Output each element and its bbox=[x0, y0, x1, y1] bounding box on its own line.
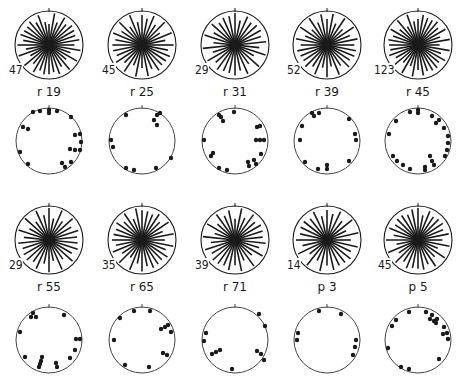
data-point bbox=[218, 348, 222, 352]
data-point bbox=[62, 313, 66, 317]
sample-count: 52 bbox=[287, 63, 301, 77]
rose-diagram bbox=[108, 8, 176, 79]
data-point bbox=[339, 312, 343, 316]
panel-label: r 65 bbox=[112, 280, 172, 294]
data-point bbox=[31, 311, 35, 315]
data-point bbox=[408, 167, 412, 171]
data-point bbox=[26, 127, 30, 131]
rose-diagram bbox=[293, 8, 361, 79]
data-point bbox=[434, 321, 438, 325]
data-point bbox=[26, 162, 30, 166]
data-point bbox=[217, 166, 221, 170]
data-point bbox=[441, 332, 445, 336]
sample-count: 39 bbox=[195, 258, 209, 272]
data-point bbox=[73, 348, 77, 352]
data-point bbox=[428, 317, 432, 321]
dot-plot bbox=[385, 304, 451, 373]
data-point bbox=[79, 140, 83, 144]
panel-label: r 45 bbox=[388, 85, 448, 99]
data-point bbox=[443, 154, 447, 158]
data-point bbox=[147, 365, 151, 369]
data-point bbox=[37, 365, 41, 369]
data-point bbox=[232, 110, 236, 114]
data-point bbox=[118, 316, 122, 320]
dot-plot bbox=[16, 105, 83, 174]
data-point bbox=[300, 124, 304, 128]
data-point bbox=[23, 355, 27, 359]
data-point bbox=[408, 110, 412, 114]
data-point bbox=[68, 356, 72, 360]
data-point bbox=[154, 166, 158, 170]
panel-label: r 31 bbox=[205, 85, 265, 99]
data-point bbox=[63, 165, 67, 169]
data-point bbox=[78, 132, 82, 136]
data-point bbox=[351, 353, 355, 357]
data-point bbox=[407, 310, 411, 314]
sample-count: 47 bbox=[9, 63, 23, 77]
data-point bbox=[124, 166, 128, 170]
data-point bbox=[210, 352, 214, 356]
data-point bbox=[442, 126, 446, 130]
data-point bbox=[442, 325, 446, 329]
rose-diagram bbox=[201, 8, 269, 79]
data-point bbox=[230, 367, 234, 371]
data-point bbox=[399, 365, 403, 369]
data-point bbox=[209, 154, 213, 158]
data-point bbox=[132, 309, 136, 313]
dot-plot bbox=[202, 105, 268, 174]
data-point bbox=[262, 358, 266, 362]
sample-count: 45 bbox=[378, 258, 392, 272]
panel-label: p 3 bbox=[297, 280, 357, 294]
data-point bbox=[354, 338, 358, 342]
data-point bbox=[219, 115, 223, 119]
data-point bbox=[202, 138, 206, 142]
data-point bbox=[347, 117, 351, 121]
data-point bbox=[166, 323, 170, 327]
sample-count: 29 bbox=[9, 258, 23, 272]
data-point bbox=[446, 134, 450, 138]
data-point bbox=[246, 160, 250, 164]
data-point bbox=[390, 324, 394, 328]
data-point bbox=[254, 138, 258, 142]
data-point bbox=[69, 115, 73, 119]
data-point bbox=[255, 349, 259, 353]
data-point bbox=[155, 123, 159, 127]
data-point bbox=[437, 357, 441, 361]
data-point bbox=[69, 160, 73, 164]
data-point bbox=[221, 119, 225, 123]
data-point bbox=[169, 330, 173, 334]
data-point bbox=[74, 337, 78, 341]
data-point bbox=[432, 163, 436, 167]
data-point bbox=[73, 133, 77, 137]
rose-diagram bbox=[293, 203, 361, 274]
panel-label: r 25 bbox=[112, 85, 172, 99]
data-point bbox=[111, 145, 115, 149]
data-point bbox=[298, 138, 302, 142]
data-point bbox=[430, 159, 434, 163]
data-point bbox=[263, 324, 267, 328]
data-point bbox=[407, 367, 411, 371]
data-point bbox=[386, 346, 390, 350]
data-point bbox=[54, 361, 58, 365]
data-point bbox=[434, 121, 438, 125]
data-point bbox=[225, 168, 229, 172]
data-point bbox=[148, 309, 152, 313]
data-point bbox=[202, 339, 206, 343]
data-point bbox=[109, 138, 113, 142]
data-point bbox=[354, 138, 358, 142]
dot-plot bbox=[294, 304, 360, 373]
data-point bbox=[394, 119, 398, 123]
data-point bbox=[428, 154, 432, 158]
data-point bbox=[18, 150, 22, 154]
data-point bbox=[317, 309, 321, 313]
data-point bbox=[78, 337, 82, 341]
data-point bbox=[347, 159, 351, 163]
data-point bbox=[204, 331, 208, 335]
data-point bbox=[47, 111, 51, 115]
data-point bbox=[259, 352, 263, 356]
data-point bbox=[29, 315, 33, 319]
data-point bbox=[353, 345, 357, 349]
sample-count: 14 bbox=[287, 258, 301, 272]
data-point bbox=[416, 111, 420, 115]
rose-diagram bbox=[15, 203, 83, 274]
